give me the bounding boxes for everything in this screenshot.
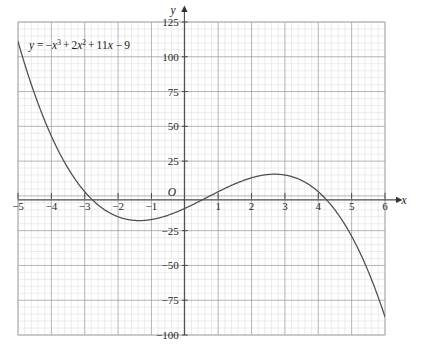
x-tick-label: 4 xyxy=(316,200,322,212)
x-tick-label: 1 xyxy=(215,200,221,212)
x-axis-label: x xyxy=(400,194,407,206)
y-axis-label: y xyxy=(169,4,176,17)
graph-figure: −5−4−3−2−1123456 125100755025−25−50−75−1… xyxy=(0,0,421,348)
x-tick-label: 2 xyxy=(249,200,255,212)
x-tick-label: 3 xyxy=(282,200,288,212)
y-tick-label: −50 xyxy=(162,259,180,271)
canvas-background xyxy=(0,0,421,348)
y-tick-label: 50 xyxy=(168,120,180,132)
y-tick-label: −100 xyxy=(156,329,179,341)
x-tick-label: −2 xyxy=(112,200,124,212)
y-tick-label: 75 xyxy=(168,86,180,98)
y-tick-label: 125 xyxy=(162,16,179,28)
equation-annotation: y=−x3+2x2+11x−9 xyxy=(28,38,130,52)
x-tick-label: −1 xyxy=(146,200,158,212)
origin-label: O xyxy=(168,186,177,198)
x-tick-label: 5 xyxy=(349,200,355,212)
y-tick-label: 100 xyxy=(162,51,179,63)
x-tick-label: −3 xyxy=(79,200,91,212)
y-tick-label: 25 xyxy=(168,155,180,167)
x-tick-label: 6 xyxy=(382,200,388,212)
x-tick-label: −5 xyxy=(12,200,24,212)
cubic-graph-plot: −5−4−3−2−1123456 125100755025−25−50−75−1… xyxy=(0,0,421,348)
y-tick-label: −75 xyxy=(162,294,180,306)
x-tick-label: −4 xyxy=(46,200,58,212)
y-tick-label: −25 xyxy=(162,225,180,237)
